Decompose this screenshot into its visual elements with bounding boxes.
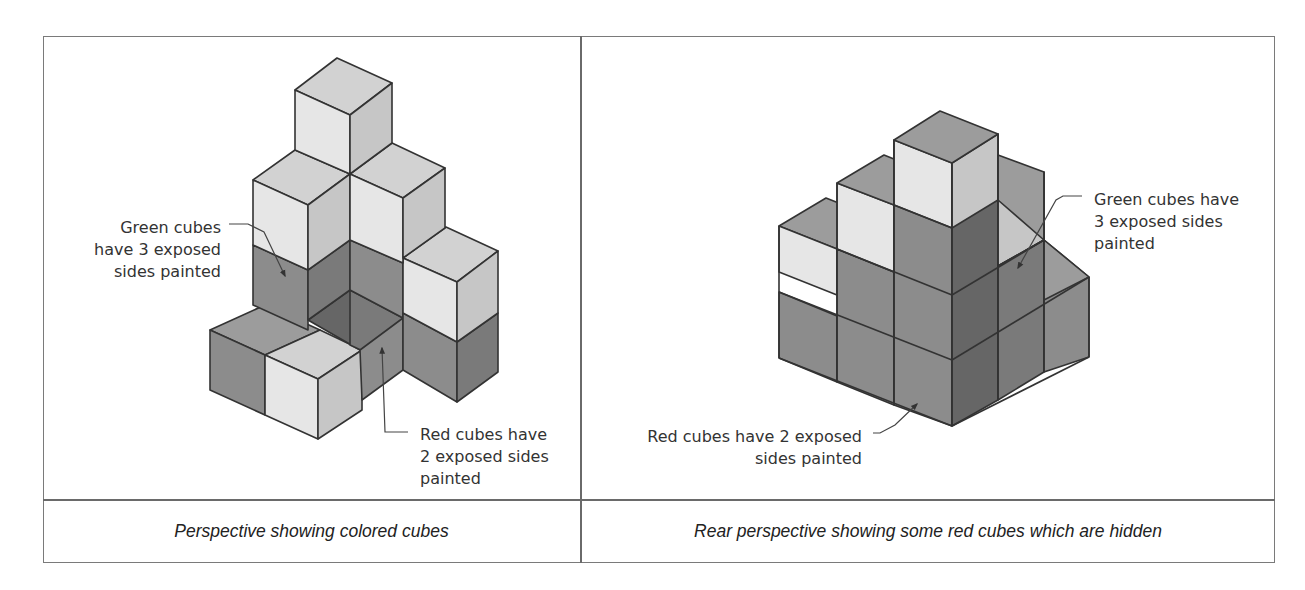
label-line: painted: [1094, 233, 1274, 255]
right-caption: Rear perspective showing some red cubes …: [581, 500, 1275, 563]
left-red-cubes-label: Red cubes have 2 exposed sides painted: [420, 424, 580, 490]
label-line: Green cubes have: [1094, 189, 1274, 211]
label-line: Red cubes have: [420, 424, 580, 446]
right-red-cubes-label: Red cubes have 2 exposed sides painted: [600, 426, 862, 470]
right-cube-stack-figure: [779, 111, 1089, 426]
cube-face: [779, 292, 837, 382]
label-line: 2 exposed sides: [420, 446, 580, 468]
label-line: have 3 exposed: [66, 239, 221, 261]
left-green-cubes-label: Green cubes have 3 exposed sides painted: [66, 217, 221, 283]
label-line: Red cubes have 2 exposed: [600, 426, 862, 448]
right-green-cubes-label: Green cubes have 3 exposed sides painted: [1094, 189, 1274, 255]
cube-face: [837, 249, 894, 405]
left-cube-stack-figure: [210, 58, 498, 439]
label-line: Green cubes: [66, 217, 221, 239]
label-line: painted: [420, 468, 580, 490]
label-line: sides painted: [600, 448, 862, 470]
left-caption: Perspective showing colored cubes: [43, 500, 580, 563]
label-line: 3 exposed sides: [1094, 211, 1274, 233]
label-line: sides painted: [66, 261, 221, 283]
